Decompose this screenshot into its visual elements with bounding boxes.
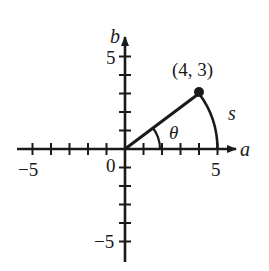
y-axis-label: b	[110, 25, 120, 47]
y-tick-label-neg5: −5	[94, 231, 114, 252]
coordinate-diagram: b a 5 −5 −5 5 0 (4, 3) θ s	[0, 0, 269, 271]
radius-segment	[125, 94, 199, 150]
x-tick-label-neg5: −5	[18, 159, 38, 180]
origin-label: 0	[106, 155, 116, 176]
point-4-3	[194, 87, 204, 97]
arc-s-label: s	[228, 102, 236, 124]
y-tick-label-5: 5	[106, 47, 116, 68]
x-axis-label: a	[240, 138, 250, 160]
angle-theta-label: θ	[169, 122, 178, 143]
angle-theta-arc	[153, 128, 160, 149]
point-label: (4, 3)	[172, 59, 213, 81]
arc-s	[199, 94, 218, 150]
x-tick-label-5: 5	[211, 159, 221, 180]
